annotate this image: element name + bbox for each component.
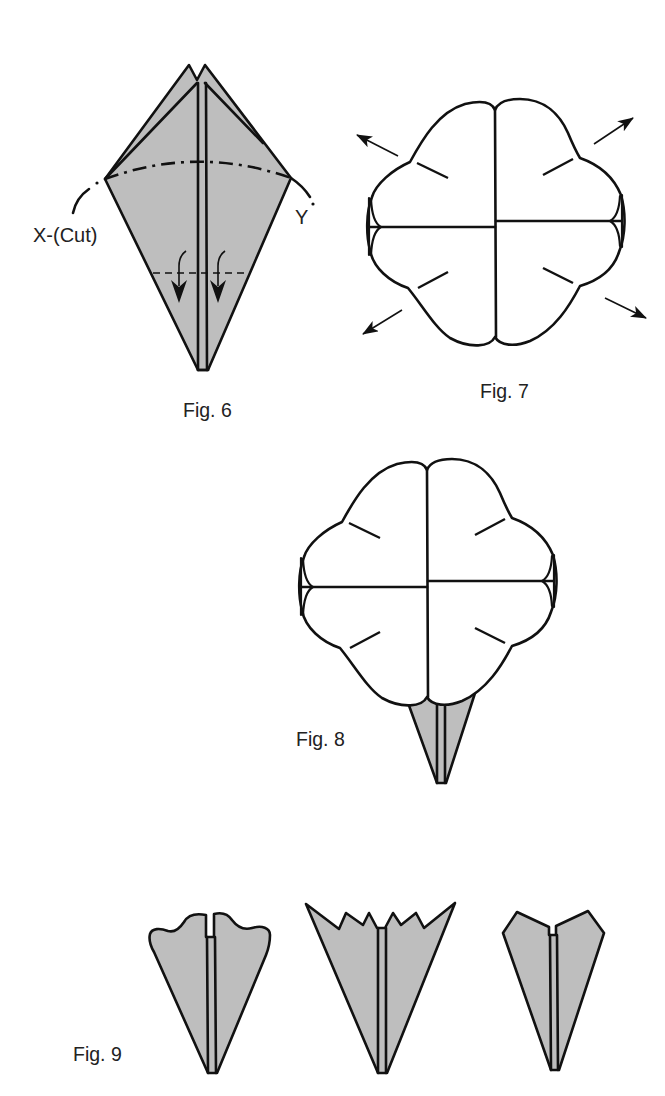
instruction-diagram: X-(Cut) Y Fig. 6 Fig. 7 Fig. 8	[0, 0, 665, 1096]
figure-label: Fig. 6	[183, 399, 232, 421]
figure-9: Fig. 9	[73, 903, 604, 1073]
figure-6: X-(Cut) Y Fig. 6	[33, 65, 315, 421]
pull-arrow-icon	[363, 310, 402, 334]
variant-pointed-top	[503, 911, 604, 1070]
pull-arrow-icon	[594, 118, 633, 144]
figure-label: Fig. 7	[480, 380, 529, 402]
flower-top	[299, 459, 556, 705]
cut-line-leader-right	[291, 178, 310, 197]
unfolded-flower	[367, 99, 624, 345]
figure-label: Fig. 8	[296, 728, 345, 750]
variant-wavy-top	[150, 913, 270, 1073]
figure-8: Fig. 8	[296, 459, 557, 783]
cut-end-label: Y	[295, 206, 308, 228]
pull-arrow-icon	[357, 135, 398, 156]
cut-start-label: X-(Cut)	[33, 224, 97, 246]
variant-zigzag-top	[306, 903, 455, 1073]
figure-7: Fig. 7	[357, 99, 646, 402]
figure-label: Fig. 9	[73, 1043, 122, 1065]
cut-line-leader-left	[73, 189, 89, 213]
pull-arrow-icon	[605, 298, 646, 318]
